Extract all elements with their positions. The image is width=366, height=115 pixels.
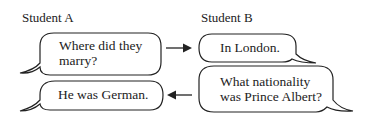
bubble-b1-text: In London. [220, 40, 280, 55]
bubble-a1-line-2: marry? [59, 53, 142, 68]
bubble-a1-line-1: Where did they [59, 38, 142, 53]
bubble-b2-line-2: was Prince Albert? [220, 89, 322, 104]
bubble-a2-text: He was German. [58, 87, 148, 102]
bubble-b1-line-1: In London. [220, 40, 280, 55]
bubble-b2-line-1: What nationality [220, 74, 322, 89]
bubble-a1-text: Where did they marry? [59, 38, 142, 68]
bubble-b2-text: What nationality was Prince Albert? [220, 74, 322, 104]
speaker-label-a: Student A [22, 11, 74, 24]
arrow-left-icon [167, 91, 192, 100]
speaker-label-b: Student B [201, 11, 253, 24]
arrow-right-icon [166, 44, 192, 53]
bubble-a2-line-1: He was German. [58, 87, 148, 102]
